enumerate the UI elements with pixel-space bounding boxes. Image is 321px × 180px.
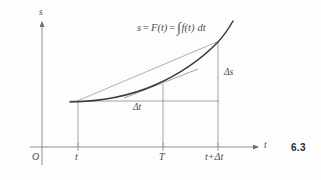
- tangent-line: [124, 69, 198, 98]
- x-tick-label-t-plus-delta-t: t+Δt: [205, 152, 223, 162]
- equation-equals-2: =: [167, 22, 177, 33]
- secant-line: [76, 41, 219, 102]
- equation-differential: dt: [194, 22, 205, 33]
- figure-6-3: s t O t T t+Δt Δs Δt s=F(t)=∫f(t)dt 6.3: [0, 0, 321, 180]
- x-tick-label-T: T: [159, 152, 165, 162]
- integral-sign: ∫: [177, 20, 181, 35]
- delta-s-label: Δs: [224, 68, 233, 78]
- curve-equation: s=F(t)=∫f(t)dt: [137, 19, 206, 35]
- x-tick-label-t: t: [75, 152, 78, 162]
- equation-integrand: f(t): [182, 22, 195, 33]
- origin-label: O: [32, 152, 39, 162]
- x-axis-label: t: [264, 141, 267, 151]
- equation-function: F(t): [151, 22, 167, 33]
- delta-t-label: Δt: [133, 103, 141, 113]
- y-axis-label: s: [39, 8, 43, 18]
- equation-equals-1: =: [141, 22, 151, 33]
- figure-number: 6.3: [291, 142, 306, 153]
